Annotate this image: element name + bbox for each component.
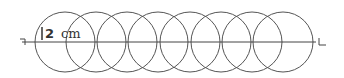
overlapping-circles-diagram: 2 cm <box>0 0 344 78</box>
radius-label: 2 cm <box>45 24 81 41</box>
radius-unit: cm <box>61 26 81 41</box>
radius-value: 2 <box>45 26 54 41</box>
line-end-marker <box>319 38 326 45</box>
